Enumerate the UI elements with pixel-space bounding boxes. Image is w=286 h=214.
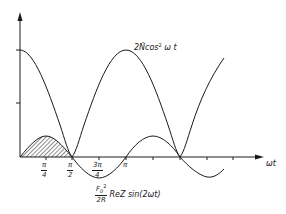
sin-2wt-label: F02 2R ReZ sin(2ωt) bbox=[95, 184, 161, 204]
y-axis-arrow-icon bbox=[18, 12, 23, 21]
x-axis-label: ωt bbox=[266, 160, 276, 168]
x-tick-label-pi-over-4: π 4 bbox=[41, 162, 47, 179]
y-axis bbox=[16, 12, 23, 157]
sin-label-fraction: F02 2R bbox=[95, 184, 107, 204]
figure-canvas bbox=[0, 0, 286, 214]
cos-squared-label: 2N̄cos2 ω t bbox=[134, 43, 177, 52]
sin-label-text: ReZ sin(2ωt) bbox=[109, 190, 160, 199]
x-tick-label-pi: π bbox=[123, 161, 127, 169]
x-tick-label-3pi-over-4: 3π 4 bbox=[92, 162, 103, 179]
x-axis-arrow-icon bbox=[255, 155, 264, 160]
x-tick-label-pi-over-2: π 2 bbox=[67, 162, 73, 179]
